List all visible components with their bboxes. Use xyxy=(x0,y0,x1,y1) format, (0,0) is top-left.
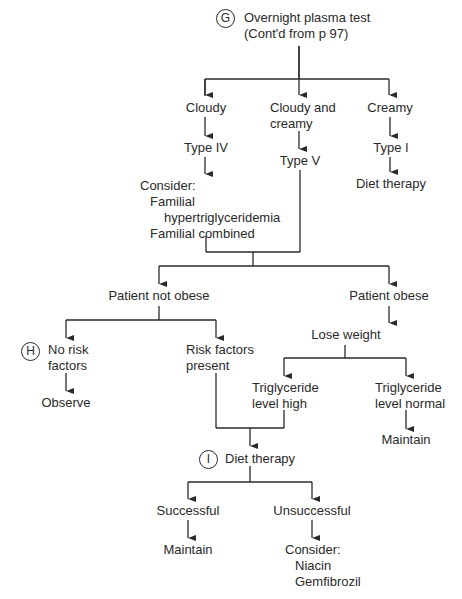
step-marker-h: H xyxy=(21,342,40,361)
consider-item-familial-combined: Familial combined xyxy=(140,226,280,242)
node-successful: Successful xyxy=(157,503,220,519)
node-patient-obese: Patient obese xyxy=(349,288,429,304)
node-no-risk-factors: No risk factors xyxy=(48,342,88,374)
node-type-i: Type I xyxy=(373,140,408,156)
node-maintain-trig-normal: Maintain xyxy=(381,432,430,448)
node-cloudy-and-creamy: Cloudy and creamy xyxy=(270,100,336,132)
step-marker-g: G xyxy=(216,9,235,28)
node-maintain-successful: Maintain xyxy=(163,542,212,558)
node-risk-factors-present: Risk factors present xyxy=(186,342,254,374)
node-consider-familial: Consider: Familial hypertriglyceridemia … xyxy=(140,178,280,242)
node-triglyceride-high: Triglyceride level high xyxy=(252,380,319,412)
node-creamy: Creamy xyxy=(367,100,413,116)
consider-drug-niacin: Niacin xyxy=(285,558,361,574)
root-node-subtitle: (Cont'd from p 97) xyxy=(244,26,348,42)
step-marker-i: I xyxy=(199,450,218,469)
node-observe: Observe xyxy=(41,395,90,411)
node-triglyceride-high-line1: Triglyceride xyxy=(252,380,319,396)
node-cloudy-and-creamy-line2: creamy xyxy=(270,116,336,132)
node-triglyceride-normal-line2: level normal xyxy=(375,396,445,412)
consider-item-hypertriglyceridemia: hypertriglyceridemia xyxy=(140,210,280,226)
node-lose-weight: Lose weight xyxy=(311,327,380,343)
node-triglyceride-normal-line1: Triglyceride xyxy=(375,380,445,396)
node-consider-drugs: Consider: Niacin Gemfibrozil xyxy=(285,542,361,590)
consider-drugs-heading: Consider: xyxy=(285,542,361,558)
consider-drug-gemfibrozil: Gemfibrozil xyxy=(285,574,361,590)
node-type-iv: Type IV xyxy=(184,140,228,156)
root-node-title: Overnight plasma test xyxy=(244,10,370,26)
node-risk-factors-present-line1: Risk factors xyxy=(186,342,254,358)
node-cloudy-and-creamy-line1: Cloudy and xyxy=(270,100,336,116)
node-no-risk-factors-line1: No risk xyxy=(48,342,88,358)
node-unsuccessful: Unsuccessful xyxy=(273,503,350,519)
node-type-v: Type V xyxy=(280,153,320,169)
node-patient-not-obese: Patient not obese xyxy=(108,288,209,304)
node-triglyceride-high-line2: level high xyxy=(252,396,319,412)
node-triglyceride-normal: Triglyceride level normal xyxy=(375,380,445,412)
node-no-risk-factors-line2: factors xyxy=(48,358,88,374)
node-diet-therapy: Diet therapy xyxy=(225,451,295,467)
consider-item-familial: Familial xyxy=(140,194,280,210)
node-risk-factors-present-line2: present xyxy=(186,358,254,374)
consider-heading: Consider: xyxy=(140,178,280,194)
node-cloudy: Cloudy xyxy=(186,100,226,116)
node-type-i-diet-therapy: Diet therapy xyxy=(356,176,426,192)
